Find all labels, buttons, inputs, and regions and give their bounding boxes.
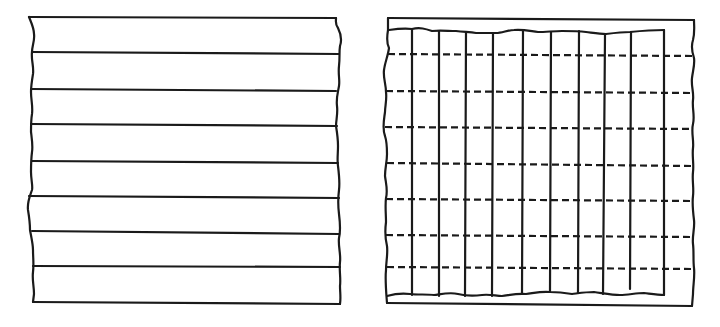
dashed-line — [386, 235, 693, 237]
diagram-canvas — [0, 0, 720, 327]
dashed-line — [385, 127, 693, 129]
left-panel-horizontal-lines — [29, 52, 340, 267]
dashed-line — [386, 91, 693, 93]
left-panel-bottom-edge — [33, 302, 340, 304]
right-panel-inner-top-wavy-edge — [389, 28, 664, 34]
left-panel-top-edge — [29, 17, 336, 18]
right-panel-right-rough-edge — [692, 20, 694, 306]
dashed-line — [388, 54, 692, 56]
left-panel-left-rough-edge — [28, 17, 34, 302]
horizontal-line — [32, 161, 338, 163]
left-panel-right-rough-edge — [336, 18, 341, 304]
dashed-line — [387, 163, 693, 166]
right-panel-inner-bottom-wavy-edge — [387, 292, 664, 296]
right-panel-left-rough-edge — [383, 18, 389, 303]
horizontal-line — [33, 266, 340, 267]
right-panel — [383, 18, 694, 306]
right-panel-dashed-lines — [385, 54, 694, 269]
horizontal-line — [32, 231, 339, 234]
dashed-line — [387, 267, 694, 269]
right-panel-outer-frame-top — [388, 18, 694, 20]
vertical-line — [522, 31, 523, 294]
vertical-line — [630, 32, 631, 289]
left-panel — [28, 17, 341, 304]
horizontal-line — [29, 196, 339, 198]
horizontal-line — [31, 89, 336, 91]
vertical-line — [603, 34, 605, 294]
right-panel-outer-frame-bottom — [387, 303, 692, 306]
horizontal-line — [32, 52, 339, 54]
vertical-line — [578, 31, 579, 293]
horizontal-line — [31, 124, 337, 126]
vertical-line — [550, 32, 551, 292]
dashed-line — [386, 199, 693, 201]
